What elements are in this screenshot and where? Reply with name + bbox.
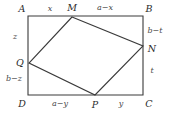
vertex-label-m: M	[67, 3, 77, 13]
vertex-label-d: D	[18, 99, 26, 109]
segment-label-bn: b−t	[147, 27, 162, 35]
segment-label-aq: z	[13, 33, 17, 41]
vertex-label-b: B	[146, 4, 153, 14]
vertex-label-a: A	[19, 4, 26, 14]
segment-label-dp: a−y	[52, 100, 68, 108]
segment-label-mb: a−x	[97, 4, 113, 12]
geometry-figure: A B C D M N P Q x a−x b−t t a−y y z b−z	[0, 0, 170, 114]
vertex-label-q: Q	[16, 58, 24, 68]
quadrilateral-mnpq	[29, 17, 143, 95]
segment-label-nc: t	[150, 67, 153, 75]
quad-outline	[29, 17, 143, 95]
diagram-canvas	[0, 0, 170, 114]
vertex-label-n: N	[148, 44, 156, 54]
vertex-label-c: C	[145, 99, 152, 109]
vertex-label-p: P	[92, 100, 98, 110]
rectangle-outline	[28, 16, 143, 95]
segment-label-pc: y	[119, 100, 124, 108]
segment-label-am: x	[48, 5, 53, 13]
segment-label-qd: b−z	[6, 75, 22, 83]
rectangle-abcd	[28, 16, 143, 95]
